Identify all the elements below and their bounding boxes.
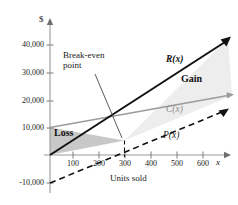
- y-axis-arrow-icon: [47, 18, 53, 25]
- breakeven-annotation-line2: point: [63, 60, 104, 70]
- x-tick-label-300: 300: [111, 159, 139, 168]
- breakeven-leader-line: [95, 74, 122, 138]
- profit-curve-label: P(x): [163, 130, 179, 140]
- x-tick-label-200: 200: [85, 159, 113, 168]
- y-tick-label-minus10000: -10,000: [0, 178, 44, 187]
- y-tick-label-10000: 10,000: [4, 123, 44, 132]
- x-tick-label-500: 500: [163, 159, 191, 168]
- y-tick-label-20000: 20,000: [4, 96, 44, 105]
- break-even-chart-figure: $ x 40,000 30,000 20,000 10,000 -10,000 …: [0, 0, 238, 205]
- loss-region-label: Loss: [54, 127, 73, 138]
- x-axis-caption: Units sold: [110, 173, 147, 183]
- cost-curve-label: C(x): [166, 104, 183, 114]
- y-tick-label-30000: 30,000: [4, 68, 44, 77]
- cost-line-cx: [50, 96, 228, 128]
- revenue-curve-label: R(x): [166, 54, 183, 64]
- y-tick-label-40000: 40,000: [4, 40, 44, 49]
- x-tick-label-100: 100: [59, 159, 87, 168]
- x-axis-arrow-icon: [224, 152, 231, 158]
- x-tick-label-600: 600: [189, 159, 217, 168]
- breakeven-annotation: Break-even point: [63, 50, 104, 70]
- breakeven-annotation-line1: Break-even: [63, 50, 104, 60]
- gain-region-label: Gain: [181, 73, 202, 84]
- x-tick-label-400: 400: [137, 159, 165, 168]
- y-axis-symbol: $: [39, 14, 44, 24]
